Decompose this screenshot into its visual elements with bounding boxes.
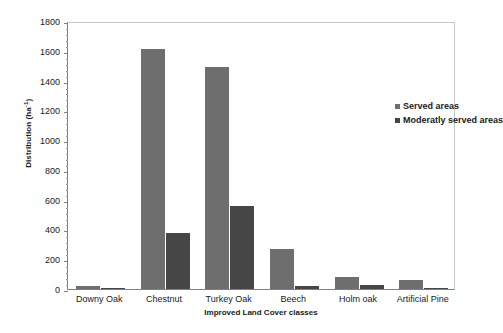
bar-served-areas [205,67,229,289]
y-axis-tick-label: 600 [24,197,60,206]
y-axis-tick-label: 200 [24,256,60,265]
y-axis-tick-labels: 020040060080010001200140016001800 [24,22,60,290]
x-axis-tick-label: Turkey Oak [196,294,261,305]
plot-area: Served areas Moderatly served areas [67,22,455,290]
bar-served-areas [76,286,100,289]
bars-layer [68,23,454,289]
y-axis-tick-label: 1400 [24,78,60,87]
bar-served-areas [399,280,423,289]
y-axis-tick-label: 400 [24,226,60,235]
legend-item-served: Served areas [395,101,503,111]
bar-moderately-served-areas [101,288,125,289]
legend-item-moderately-served: Moderatly served areas [395,115,503,125]
chart-legend: Served areas Moderatly served areas [395,101,503,129]
y-axis-tick-label: 1000 [24,137,60,146]
bar-group [141,23,190,289]
bar-moderately-served-areas [424,288,448,289]
legend-label-served: Served areas [403,101,459,111]
y-axis-major-tick [64,291,68,292]
bar-group [205,23,254,289]
x-axis-title: Improved Land Cover classes [67,308,455,317]
bar-served-areas [141,49,165,289]
bar-moderately-served-areas [295,286,319,289]
y-axis-tick-label: 1200 [24,107,60,116]
bar-group [399,23,448,289]
bar-moderately-served-areas [230,206,254,289]
bar-group [270,23,319,289]
bar-group [76,23,125,289]
bar-moderately-served-areas [166,233,190,289]
x-axis-tick-label: Beech [261,294,326,305]
legend-swatch-served-icon [395,104,400,109]
x-axis-tick-labels: Downy OakChestnutTurkey OakBeechHolm oak… [67,294,455,308]
y-axis-tick-label: 1800 [24,18,60,27]
legend-label-moderately-served: Moderatly served areas [403,115,503,125]
x-axis-tick-label: Chestnut [132,294,197,305]
legend-swatch-moderate-icon [395,118,400,123]
x-axis-tick-label: Holm oak [326,294,391,305]
y-axis-tick-label: 800 [24,167,60,176]
y-axis-tick-label: 0 [24,286,60,295]
bar-served-areas [270,249,294,289]
bar-served-areas [335,277,359,289]
bar-group [335,23,384,289]
x-axis-tick-label: Downy Oak [67,294,132,305]
x-axis-tick-label: Artificial Pine [390,294,455,305]
bar-moderately-served-areas [360,285,384,289]
y-axis-tick-label: 1600 [24,48,60,57]
